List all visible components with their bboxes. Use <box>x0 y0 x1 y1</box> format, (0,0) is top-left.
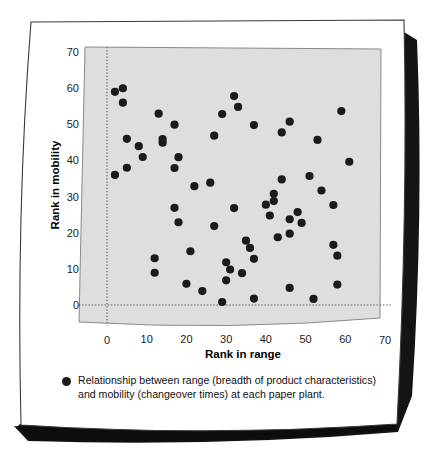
caption-text: Relationship between range (breadth of p… <box>78 374 376 401</box>
scatter-point <box>151 254 159 262</box>
y-tick-label: 10 <box>67 263 79 275</box>
y-tick-label: 20 <box>67 227 79 239</box>
scatter-point <box>333 280 341 288</box>
scatter-point <box>218 298 226 306</box>
scatter-point <box>286 118 294 126</box>
scatter-point <box>170 204 178 212</box>
scatter-point <box>123 164 131 172</box>
scatter-point <box>309 295 317 303</box>
x-tick-label: 60 <box>339 333 351 345</box>
scatter-point <box>337 107 345 115</box>
scatter-point <box>198 287 206 295</box>
scatter-point <box>238 269 246 277</box>
scatter-point <box>274 233 282 241</box>
scatter-point <box>298 219 306 227</box>
scatter-point <box>210 222 218 230</box>
scatter-point <box>230 204 238 212</box>
scatter-point <box>206 179 214 187</box>
scatter-point <box>250 294 258 302</box>
scatter-point <box>174 218 182 226</box>
scatter-point <box>345 158 353 166</box>
y-axis-tick-labels: 010203040506070 <box>67 46 79 311</box>
figure-caption: Relationship between range (breadth of p… <box>62 374 392 401</box>
scatter-point <box>182 280 190 288</box>
scatter-point <box>294 208 302 216</box>
scatter-point <box>151 269 159 277</box>
scatter-point <box>111 88 119 96</box>
x-tick-label: 10 <box>141 333 153 345</box>
y-tick-label: 40 <box>67 154 79 166</box>
scatter-point <box>234 103 242 111</box>
y-tick-label: 30 <box>67 191 79 203</box>
x-tick-label: 50 <box>299 333 311 345</box>
x-tick-label: 70 <box>379 334 391 346</box>
scatter-point <box>222 276 230 284</box>
scatter-point <box>286 230 294 238</box>
scatter-point <box>333 252 341 260</box>
scatter-point <box>119 99 127 107</box>
x-tick-label: 40 <box>260 333 272 345</box>
scatter-point <box>135 142 143 150</box>
scatter-point <box>242 237 250 245</box>
scatter-point <box>123 135 131 143</box>
scatter-point <box>266 211 274 219</box>
y-tick-label: 70 <box>67 46 79 58</box>
scatter-point <box>226 265 234 273</box>
scatter-point <box>305 172 313 180</box>
scatter-point <box>155 110 163 118</box>
scatter-point <box>210 132 218 140</box>
scatter-point <box>119 84 127 92</box>
scatter-point <box>250 121 258 129</box>
scatter-point <box>270 190 278 198</box>
y-tick-label: 60 <box>67 82 79 94</box>
scatter-point <box>262 201 270 209</box>
filled-circle-marker-icon <box>62 377 71 386</box>
scatter-point <box>278 128 286 136</box>
scatter-point <box>278 175 286 183</box>
scatter-point <box>250 255 258 263</box>
x-tick-label: 30 <box>220 333 232 345</box>
x-axis-tick-labels: 010203040506070 <box>104 333 391 346</box>
scatter-point <box>186 247 194 255</box>
scatter-point <box>317 186 325 194</box>
scatter-point <box>139 153 147 161</box>
scatter-point <box>230 92 238 100</box>
y-axis-title: Rank in mobility <box>49 140 61 229</box>
scatter-point <box>329 201 337 209</box>
scatter-point <box>313 136 321 144</box>
scatter-point <box>270 197 278 205</box>
x-axis-title: Rank in range <box>205 348 281 360</box>
y-tick-label: 0 <box>73 299 79 311</box>
scatter-point <box>218 110 226 118</box>
scatter-point <box>286 215 294 223</box>
scatter-point <box>246 244 254 252</box>
y-tick-label: 50 <box>67 118 79 130</box>
scatter-point <box>170 121 178 129</box>
scatter-point <box>159 139 167 147</box>
scatter-point <box>190 182 198 190</box>
caption-line-1: Relationship between range (breadth of p… <box>78 374 376 388</box>
caption-line-2: and mobility (changeover times) at each … <box>78 388 376 402</box>
scatter-point <box>222 258 230 266</box>
scatter-point <box>111 171 119 179</box>
figure-page: 010203040506070 010203040506070 Rank in … <box>0 0 445 449</box>
scatter-point <box>174 153 182 161</box>
x-tick-label: 20 <box>180 333 192 345</box>
scatter-point <box>329 241 337 249</box>
x-tick-label: 0 <box>104 334 110 346</box>
scatter-point <box>286 284 294 292</box>
scatter-point <box>170 164 178 172</box>
